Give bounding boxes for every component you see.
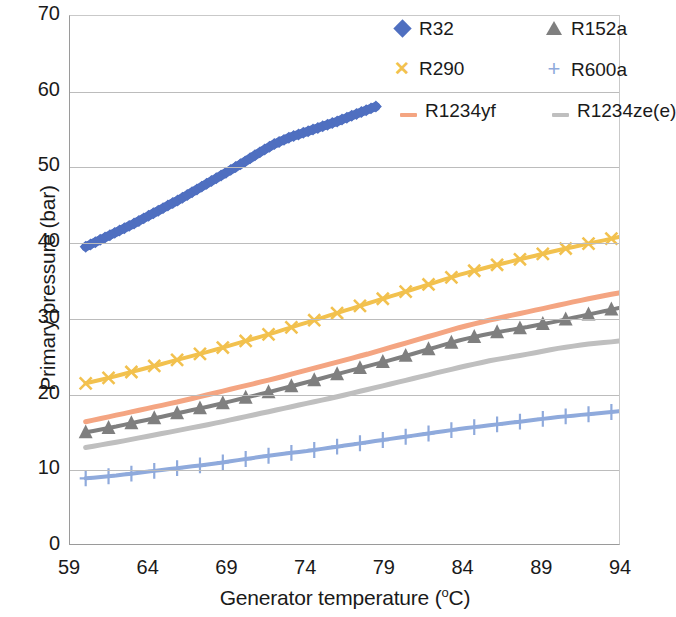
gridline	[70, 395, 619, 396]
x-tick-label: 89	[511, 556, 571, 579]
x-tick-label: 64	[118, 556, 178, 579]
y-tick-label: 30	[14, 305, 60, 328]
x-tick-label: 79	[354, 556, 414, 579]
degree-symbol: o	[442, 585, 449, 600]
gridline	[70, 167, 619, 168]
legend-item-r290[interactable]: ✕R290	[392, 58, 464, 80]
legend-label: R152a	[571, 18, 627, 40]
line-marker-icon	[550, 100, 570, 122]
x-tick-label: 69	[196, 556, 256, 579]
legend-item-r152a[interactable]: R152a	[544, 18, 627, 40]
legend-item-r1234zee[interactable]: R1234ze(e)	[550, 100, 676, 122]
x-tick-label: 94	[590, 556, 650, 579]
legend-item-r600a[interactable]: +R600a	[544, 58, 627, 81]
y-tick-label: 70	[14, 2, 60, 25]
legend-label: R290	[419, 58, 464, 80]
x-marker-icon: ✕	[392, 58, 412, 80]
legend-label: R1234ze(e)	[577, 100, 676, 122]
gridline	[70, 243, 619, 244]
legend-label: R32	[419, 18, 454, 40]
x-tick-label: 84	[433, 556, 493, 579]
y-tick-label: 10	[14, 456, 60, 479]
series-r32	[80, 101, 382, 253]
y-tick-label: 20	[14, 381, 60, 404]
triangle-marker-icon	[544, 18, 564, 40]
y-tick-label: 40	[14, 229, 60, 252]
x-axis-title-tail: C)	[449, 586, 471, 609]
y-tick-label: 0	[14, 532, 60, 555]
y-tick-label: 50	[14, 153, 60, 176]
legend-item-r1234yf[interactable]: R1234yf	[398, 100, 496, 122]
legend-item-r32[interactable]: R32	[392, 18, 454, 40]
diamond-marker-icon	[392, 18, 412, 40]
y-axis-tick-labels: 706050403020100	[8, 0, 60, 560]
y-tick-label: 60	[14, 78, 60, 101]
x-axis-title-text: Generator temperature (	[220, 586, 442, 609]
series-r1234yf	[86, 293, 619, 422]
chart-legend: R32R152a✕R290+R600aR1234yfR1234ze(e)	[392, 18, 644, 128]
x-tick-label: 59	[39, 556, 99, 579]
x-axis-title: Generator temperature (oC)	[69, 585, 621, 610]
gridline	[70, 470, 619, 471]
x-axis-tick-labels: 5964697479848994	[0, 556, 648, 586]
legend-label: R600a	[571, 59, 627, 81]
gridline	[70, 319, 619, 320]
x-tick-label: 74	[275, 556, 335, 579]
line-marker-icon	[398, 100, 418, 122]
plus-marker-icon: +	[544, 58, 564, 81]
legend-label: R1234yf	[425, 100, 496, 122]
